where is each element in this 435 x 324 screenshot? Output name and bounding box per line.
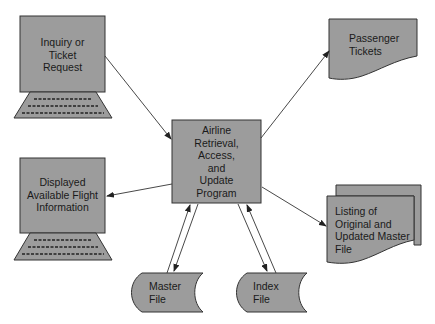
program-label: Airline Retrieval, Access, and Update Pr… bbox=[172, 124, 261, 199]
label-line: Index bbox=[253, 280, 303, 293]
arrow-program-to-master bbox=[174, 204, 198, 271]
label-line: Access, bbox=[172, 149, 261, 162]
inquiry-label: Inquiry or Ticket Request bbox=[20, 36, 105, 74]
arrow-program-to-tickets bbox=[261, 51, 329, 138]
label-line: Updated Master bbox=[335, 230, 420, 243]
arrow-program-to-index bbox=[238, 204, 267, 271]
label-line: Inquiry or bbox=[20, 36, 105, 49]
label-line: Listing of bbox=[335, 205, 420, 218]
label-line: Retrieval, bbox=[172, 137, 261, 150]
display-label: Displayed Available Flight Information bbox=[16, 176, 109, 214]
label-line: File bbox=[149, 293, 199, 306]
arrow-inquiry-to-program bbox=[105, 56, 171, 139]
label-line: Program bbox=[172, 187, 261, 200]
label-line: Available Flight bbox=[16, 189, 109, 202]
label-line: Request bbox=[20, 61, 105, 74]
label-line: Update bbox=[172, 174, 261, 187]
label-line: Displayed bbox=[16, 176, 109, 189]
arrow-program-to-listing bbox=[262, 187, 326, 226]
label-line: Original and bbox=[335, 218, 420, 231]
label-line: File bbox=[253, 293, 303, 306]
label-line: Master bbox=[149, 280, 199, 293]
label-line: Tickets bbox=[349, 45, 419, 58]
master-file-label: Master File bbox=[149, 280, 199, 305]
arrow-master-to-program bbox=[167, 205, 190, 273]
label-line: Ticket bbox=[20, 49, 105, 62]
arrow-program-to-display bbox=[107, 184, 172, 196]
index-file-label: Index File bbox=[253, 280, 303, 305]
listing-label: Listing of Original and Updated Master F… bbox=[335, 205, 420, 255]
label-line: Passenger bbox=[349, 32, 419, 45]
label-line: Information bbox=[16, 201, 109, 214]
label-line: Airline bbox=[172, 124, 261, 137]
label-line: File bbox=[335, 243, 420, 256]
arrow-index-to-program bbox=[247, 205, 276, 273]
tickets-label: Passenger Tickets bbox=[349, 32, 419, 57]
label-line: and bbox=[172, 162, 261, 175]
